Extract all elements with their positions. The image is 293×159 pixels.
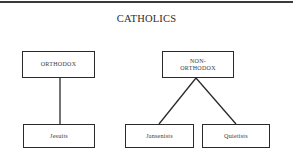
node-jansenists-label: Jansenists [146, 133, 173, 140]
node-jansenists: Jansenists [125, 124, 194, 148]
node-jesuits-label: Jesuits [50, 133, 68, 140]
node-quietists-label: Quietists [224, 133, 248, 140]
edge-nonorthodox-quietists [196, 78, 236, 124]
node-orthodox: ORTHODOX [22, 51, 95, 78]
node-jesuits: Jesuits [23, 124, 95, 148]
node-orthodox-label: ORTHODOX [41, 61, 77, 67]
diagram-canvas: CATHOLICS ORTHODOX NON- ORTHODOX Jesuits… [0, 0, 293, 159]
edge-nonorthodox-jansenists [159, 78, 196, 124]
node-non-orthodox-label-line2: ORTHODOX [180, 65, 216, 71]
node-quietists: Quietists [202, 124, 270, 148]
node-non-orthodox: NON- ORTHODOX [162, 51, 234, 78]
